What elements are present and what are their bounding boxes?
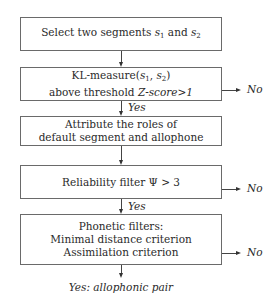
reliability-filter-text: Reliability filter Ψ > 3 bbox=[62, 176, 180, 189]
kl-measure-line2: above threshold Z-score>1 bbox=[49, 86, 193, 99]
yes-label-1: Yes bbox=[128, 101, 146, 113]
no-label-1: No bbox=[247, 83, 263, 95]
arrow-1-2-line bbox=[121, 51, 122, 62]
no-label-3: No bbox=[247, 246, 263, 258]
final-result-label: Yes: allophonic pair bbox=[0, 281, 242, 293]
yes-label-2: Yes bbox=[128, 200, 146, 212]
step-reliability-filter: Reliability filter Ψ > 3 bbox=[20, 165, 222, 199]
arrow-right-icon bbox=[236, 251, 241, 255]
arrow-no-1-line bbox=[222, 90, 236, 91]
phonetic-filters-line3: Assimilation criterion bbox=[64, 246, 179, 259]
arrow-right-icon bbox=[236, 88, 241, 92]
arrow-no-2-line bbox=[222, 189, 236, 190]
arrow-right-icon bbox=[236, 187, 241, 191]
kl-measure-line1: KL-measure(s1, s2) bbox=[72, 69, 171, 86]
step-kl-measure: KL-measure(s1, s2) above threshold Z-sco… bbox=[20, 67, 222, 101]
attribute-roles-line1: Attribute the roles of bbox=[65, 118, 177, 131]
arrow-final-line bbox=[121, 265, 122, 273]
step-select-segments-text: Select two segments s1 and s2 bbox=[41, 26, 201, 43]
arrow-down-icon bbox=[119, 273, 123, 278]
attribute-roles-line2: default segment and allophone bbox=[39, 131, 204, 144]
no-label-2: No bbox=[247, 182, 263, 194]
arrow-no-3-line bbox=[222, 253, 236, 254]
phonetic-filters-line1: Phonetic filters: bbox=[79, 220, 164, 233]
phonetic-filters-line2: Minimal distance criterion bbox=[50, 233, 191, 246]
arrow-2-3-line bbox=[121, 101, 122, 111]
step-select-segments: Select two segments s1 and s2 bbox=[20, 17, 222, 51]
arrow-4-5-line bbox=[121, 199, 122, 209]
step-attribute-roles: Attribute the roles of default segment a… bbox=[20, 116, 222, 146]
arrow-3-4-line bbox=[121, 146, 122, 160]
step-phonetic-filters: Phonetic filters: Minimal distance crite… bbox=[20, 214, 222, 265]
